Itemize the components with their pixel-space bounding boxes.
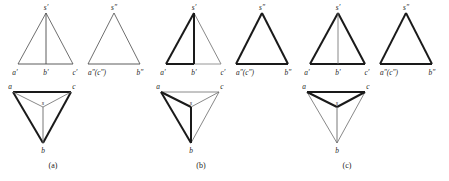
label-b-front: b′ (191, 68, 197, 77)
group-c-front-view: s′ a′ b′ c′ (304, 3, 369, 77)
edge-s-a (310, 13, 338, 64)
edge-s-a (166, 13, 194, 64)
label-a-top: a (302, 82, 306, 91)
label-b-top: b (189, 146, 193, 155)
label-ac-side: a″(c″) (88, 68, 107, 77)
label-a-top: a (8, 82, 12, 91)
label-c-top: c (366, 82, 370, 91)
caption-group-b: (b) (196, 161, 206, 170)
group-b: s′ a′ b′ c′ s″ a″(c″) b″ a c b s (b (156, 3, 292, 170)
edge-s-c (338, 13, 365, 64)
group-b-side-view: s″ a″(c″) b″ (236, 3, 292, 77)
group-a-front-view: s′ a′ b′ c′ (12, 3, 77, 77)
label-s-top: s (42, 100, 45, 106)
label-s-top: s (336, 100, 339, 106)
edge-s-b (406, 13, 432, 64)
label-ac-side: a″(c″) (236, 68, 255, 77)
label-c-front: c′ (365, 68, 370, 77)
label-b-top: b (41, 146, 45, 155)
group-a-top-view: a c b s (8, 82, 76, 155)
group-a-side-view: s″ a″(c″) b″ (88, 3, 144, 77)
edge-s-ac (236, 13, 262, 64)
group-a: s′ a′ b′ c′ s″ a″(c″) b″ a c b s (a (8, 3, 144, 170)
edge-s-c (46, 13, 73, 64)
label-apex-front: s′ (336, 3, 341, 12)
label-ac-side: a″(c″) (380, 68, 399, 77)
edge-s-ac (88, 13, 114, 64)
group-b-top-view: a c b s (156, 82, 224, 155)
edge-s-ac (380, 13, 406, 64)
technical-drawing-figure: s′ a′ b′ c′ s″ a″(c″) b″ a c b s (a (0, 0, 449, 181)
caption-group-c: (c) (343, 161, 352, 170)
caption-group-a: (a) (49, 161, 58, 170)
label-c-top: c (72, 82, 76, 91)
label-apex-side: s″ (111, 3, 118, 12)
label-c-front: c′ (73, 68, 78, 77)
label-b-side: b″ (137, 68, 145, 77)
group-b-front-view: s′ a′ b′ c′ (160, 3, 225, 77)
label-a-front: a′ (12, 68, 18, 77)
label-apex-front: s′ (44, 3, 49, 12)
label-b-top: b (335, 146, 339, 155)
label-c-front: c′ (221, 68, 226, 77)
label-b-side: b″ (285, 68, 293, 77)
label-b-front: b′ (335, 68, 341, 77)
label-a-front: a′ (160, 68, 166, 77)
edge-s-a (18, 13, 46, 64)
label-a-front: a′ (304, 68, 310, 77)
label-b-front: b′ (43, 68, 49, 77)
label-b-side: b″ (429, 68, 437, 77)
figure-canvas: s′ a′ b′ c′ s″ a″(c″) b″ a c b s (a (0, 0, 449, 181)
label-apex-side: s″ (259, 3, 266, 12)
label-apex-side: s″ (403, 3, 410, 12)
group-c-side-view: s″ a″(c″) b″ (380, 3, 436, 77)
label-apex-front: s′ (192, 3, 197, 12)
label-a-top: a (156, 82, 160, 91)
edge-s-b (262, 13, 288, 64)
edge-s-b (114, 13, 140, 64)
label-s-top: s (190, 100, 193, 106)
edge-s-c (194, 13, 221, 64)
label-c-top: c (220, 82, 224, 91)
group-c-top-view: a c b s (302, 82, 370, 155)
group-c: s′ a′ b′ c′ s″ a″(c″) b″ a c b s (c (302, 3, 436, 170)
